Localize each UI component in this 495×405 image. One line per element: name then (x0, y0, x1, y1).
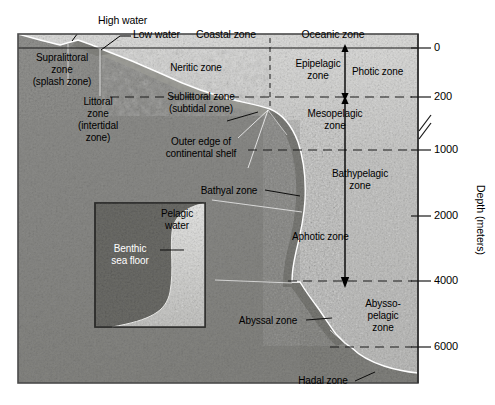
label-abyssopelagic-line2: pelagic (352, 310, 414, 321)
label-outer-edge-line2: continental shelf (142, 148, 260, 159)
label-abyssal-zone: Abyssal zone (228, 315, 308, 326)
label-littoral-line2: zone (62, 108, 134, 119)
axis-break-marks (419, 115, 431, 139)
label-littoral-line1: Littoral (62, 96, 134, 107)
depth-tick-label-0: 0 (434, 41, 440, 53)
label-supralittoral-line3: (splash zone) (12, 76, 112, 87)
depth-tick-label-200: 200 (434, 90, 452, 102)
inset-label-pelagic-line2: water (150, 220, 204, 231)
label-neritic-zone: Neritic zone (150, 62, 242, 73)
label-abyssopelagic-line3: zone (352, 322, 414, 333)
depth-tick-label-1000: 1000 (434, 143, 458, 155)
label-abyssopelagic-line1: Abysso- (352, 298, 414, 309)
label-supralittoral-line2: zone (16, 64, 108, 75)
label-mesopelagic-line2: zone (288, 120, 382, 131)
label-epipelagic-line2: zone (277, 70, 359, 81)
label-littoral-line4: zone) (62, 132, 134, 143)
label-sublittoral-line1: Sublittoral zone (146, 91, 256, 102)
depth-tick-label-6000: 6000 (434, 340, 458, 352)
label-photic-zone: Photic zone (352, 66, 403, 77)
label-hadal-zone: Hadal zone (288, 375, 358, 386)
inset-label-benthic-line2: sea floor (96, 255, 164, 266)
label-sublittoral-line2: (subtidal zone) (146, 103, 256, 114)
label-bathyal-zone: Bathyal zone (190, 185, 268, 196)
label-low-water: Low water (133, 29, 180, 41)
label-epipelagic-line1: Epipelagic (277, 58, 359, 69)
label-mesopelagic-line1: Mesopelagic (288, 108, 382, 119)
label-bathypelagic-line1: Bathypelagic (312, 168, 408, 179)
label-aphotic-zone: Aphotic zone (292, 231, 349, 242)
label-oceanic-zone: Oceanic zone (278, 29, 388, 41)
depth-tick-label-2000: 2000 (434, 209, 458, 221)
label-littoral-line3: (intertidal (58, 120, 138, 131)
figure-canvas: High water Low water Coastal zone Oceani… (0, 0, 495, 405)
label-bathypelagic-line2: zone (312, 180, 408, 191)
depth-tick-label-4000: 4000 (434, 274, 458, 286)
label-outer-edge-line1: Outer edge of (146, 136, 256, 147)
depth-axis-title: Depth (meters) (475, 185, 487, 255)
label-supralittoral-line1: Supralittoral (16, 52, 108, 63)
inset-label-benthic-line1: Benthic (100, 243, 160, 254)
label-coastal-zone: Coastal zone (176, 29, 276, 41)
inset-label-pelagic-line1: Pelagic (150, 208, 204, 219)
label-high-water: High water (98, 15, 147, 27)
